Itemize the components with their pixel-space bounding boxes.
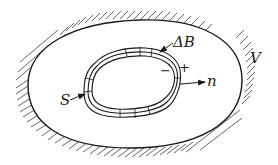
outer-boundary-hatching [16, 11, 255, 157]
normal-vector-arrow [180, 82, 205, 84]
label-minus: − [160, 64, 171, 77]
label-v: V [250, 51, 261, 66]
label-n: n [207, 74, 217, 89]
diagram-canvas: ΔB V n S − + [0, 0, 278, 165]
delta-b-arrow [160, 43, 173, 52]
label-plus: + [179, 61, 190, 74]
boundary-layer [84, 48, 181, 117]
label-delta-b: ΔB [173, 35, 195, 50]
diagram-svg [0, 0, 278, 165]
label-s: S [60, 93, 70, 108]
s-arrow [70, 94, 85, 100]
